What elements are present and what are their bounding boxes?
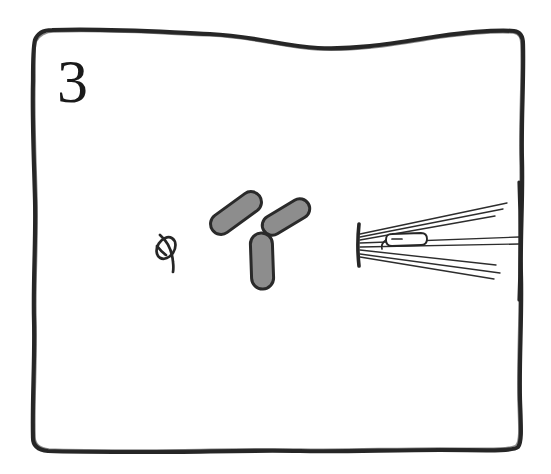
panel-number: 3 xyxy=(57,47,88,115)
spindle-pole-bar xyxy=(358,224,359,266)
figure-canvas: 3 xyxy=(0,0,551,474)
spindle-right-terminal-bar xyxy=(519,182,520,300)
triskelion-lower-lobe xyxy=(250,233,274,290)
figure-panel: 3 xyxy=(0,0,551,474)
